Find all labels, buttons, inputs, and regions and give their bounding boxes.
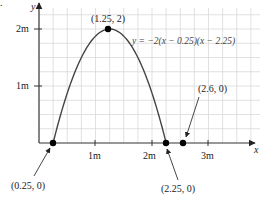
parabola-diagram: y x . 1m 2m 3m 1m 2m (1.25, 2) (0.25, 0)… bbox=[0, 0, 260, 200]
equation-label: y = −2(x − 0.25)(x − 2.25) bbox=[131, 36, 235, 47]
label-root2: (2.25, 0) bbox=[161, 183, 195, 195]
arrow-root1 bbox=[34, 148, 50, 176]
x-axis-label: x bbox=[253, 144, 259, 155]
point-other bbox=[180, 140, 186, 146]
point-root1 bbox=[50, 140, 56, 146]
y-tick-label-2m: 2m bbox=[16, 23, 29, 34]
point-root2 bbox=[163, 140, 169, 146]
label-other: (2.6, 0) bbox=[198, 83, 227, 95]
y-tick-label-1m: 1m bbox=[16, 80, 29, 91]
grid bbox=[39, 8, 260, 143]
corner-fragment: . bbox=[0, 0, 3, 8]
point-vertex bbox=[105, 26, 111, 32]
x-tick-label-3m: 3m bbox=[201, 150, 214, 161]
y-axis-label: y bbox=[30, 1, 36, 12]
x-tick-label-1m: 1m bbox=[88, 150, 101, 161]
label-root1: (0.25, 0) bbox=[11, 180, 45, 192]
arrow-other bbox=[186, 97, 199, 137]
x-tick-label-2m: 2m bbox=[143, 150, 156, 161]
label-vertex: (1.25, 2) bbox=[91, 13, 125, 25]
arrow-root2 bbox=[167, 149, 178, 180]
